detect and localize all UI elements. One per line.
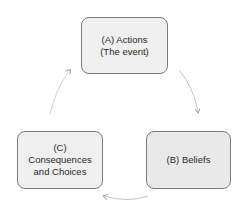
- node-actions: (A) Actions (The event): [81, 17, 168, 74]
- node-consequences-label: (C) Consequences and Choices: [28, 142, 91, 178]
- arrow-b-to-c: [104, 196, 148, 200]
- arrow-c-to-a: [50, 70, 70, 114]
- arrow-a-to-b: [179, 70, 198, 112]
- node-beliefs: (B) Beliefs: [146, 131, 231, 189]
- node-consequences: (C) Consequences and Choices: [17, 131, 103, 189]
- node-actions-label: (A) Actions (The event): [100, 34, 149, 58]
- node-beliefs-label: (B) Beliefs: [167, 154, 211, 166]
